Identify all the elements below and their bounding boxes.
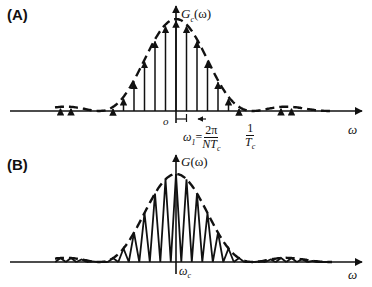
panel-b-y-label: G(ω) xyxy=(181,155,208,168)
panel-a-y-label: Gc(ω) xyxy=(181,7,211,24)
panel-a-w1-annotation: ω1=2πNTc xyxy=(183,124,221,153)
panel-b-tag: (B) xyxy=(7,157,28,172)
panel-a-tag: (A) xyxy=(7,7,28,22)
envelope-curve xyxy=(55,19,332,111)
panel-a-origin-label: o xyxy=(163,116,169,127)
panel-a-x-label: ω xyxy=(348,123,357,136)
panel-b-x-label: ω xyxy=(348,268,357,281)
panel-a-tc-annotation: 1Tc xyxy=(245,122,255,151)
panel-b-plot xyxy=(10,155,362,274)
panel-b-origin-label: ωc xyxy=(179,265,191,280)
